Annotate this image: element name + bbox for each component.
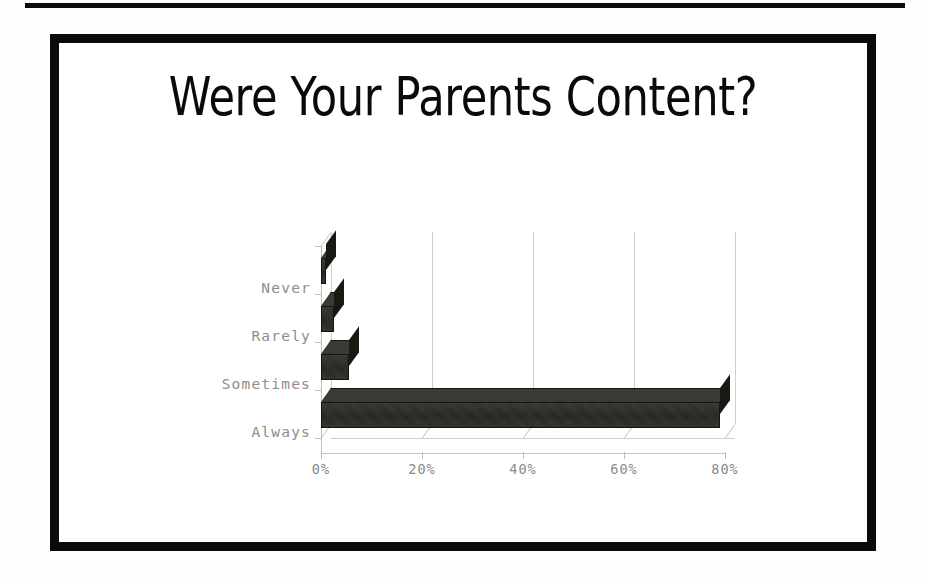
bar-top-face: [321, 388, 730, 402]
scanned-page: Were Your Parents Content? NeverRarelySo…: [0, 0, 929, 582]
category-label-rarely: Rarely: [141, 328, 311, 344]
bar-right-face: [349, 326, 359, 366]
category-label-sometimes: Sometimes: [141, 376, 311, 392]
xtick-label-40: 40%: [493, 461, 553, 477]
bar-chart: NeverRarelySometimesAlways0%20%40%60%80%: [59, 173, 867, 503]
xtick-label-80: 80%: [695, 461, 755, 477]
page-title: Were Your Parents Content?: [140, 67, 786, 127]
category-label-always: Always: [141, 424, 311, 440]
bar-right-face: [720, 374, 730, 414]
tick-mark-80: [725, 452, 726, 459]
ytick-mark-0: [315, 246, 322, 247]
plot-area: NeverRarelySometimesAlways0%20%40%60%80%: [59, 173, 867, 503]
ytick-mark-3: [315, 390, 322, 391]
slide-frame: Were Your Parents Content? NeverRarelySo…: [50, 34, 876, 551]
bar-never: [321, 258, 326, 284]
slide-content: Were Your Parents Content? NeverRarelySo…: [59, 43, 867, 542]
bar-rarely: [321, 306, 334, 332]
bar-front-face: [321, 354, 349, 380]
category-label-never: Never: [141, 280, 311, 296]
xtick-label-0: 0%: [291, 461, 351, 477]
bar-front-face: [321, 258, 326, 284]
bar-front-face: [321, 402, 720, 428]
bar-right-face: [334, 278, 344, 318]
xtick-label-60: 60%: [594, 461, 654, 477]
gridline-vertical-80: [735, 232, 736, 424]
ytick-mark-2: [315, 342, 322, 343]
bar-sometimes: [321, 354, 349, 380]
bar-always: [321, 402, 720, 428]
floor-back-edge: [331, 438, 735, 439]
bar-front-face: [321, 306, 334, 332]
page-top-rule: [25, 3, 905, 8]
xtick-label-20: 20%: [392, 461, 452, 477]
gridline-depth-80: [725, 424, 736, 439]
ytick-mark-1: [315, 294, 322, 295]
floor-front-edge: [321, 453, 725, 454]
ytick-mark-baseline: [315, 438, 322, 439]
